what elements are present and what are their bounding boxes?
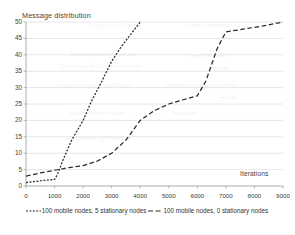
legend-label-0: 100 mobile nodes, 5 stationary nodes [41,207,148,214]
legend-swatch-dotted-icon [26,209,41,213]
legend-label-1: 100 mobile nodes, 0 stationary nodes [163,207,270,214]
plot-area [0,0,295,235]
series-line-0 [26,22,140,183]
message-distribution-chart: Message distribution Iterations 05101520… [0,0,295,235]
legend-swatch-dashed-icon [148,209,163,213]
legend-entry-1[interactable]: 100 mobile nodes, 0 stationary nodes [148,206,270,214]
legend-entry-0[interactable]: 100 mobile nodes, 5 stationary nodes [26,206,148,214]
chart-legend: 100 mobile nodes, 5 stationary nodes100 … [0,206,295,214]
